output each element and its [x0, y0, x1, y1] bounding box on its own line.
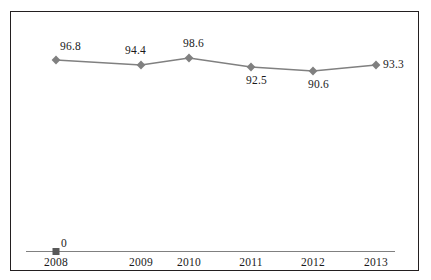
- series-1-line: [56, 58, 376, 71]
- x-tick-2012: 2012: [293, 257, 333, 269]
- x-tick-2008: 2008: [36, 257, 76, 269]
- x-tick-2013: 2013: [356, 257, 396, 269]
- value-label-zero: 0: [61, 238, 67, 250]
- x-tick-2010: 2010: [169, 257, 209, 269]
- x-tick-2011: 2011: [231, 257, 271, 269]
- value-label-2013: 93.3: [383, 59, 404, 71]
- series-1-marker-2011: [247, 63, 256, 72]
- series-2-marker-2008: [53, 248, 60, 255]
- value-label-2011: 92.5: [246, 75, 267, 87]
- x-tick-2009: 2009: [121, 257, 161, 269]
- value-label-2012: 90.6: [308, 79, 329, 91]
- value-label-2009: 94.4: [125, 45, 146, 57]
- series-1-marker-2008: [52, 56, 61, 65]
- series-1-marker-2013: [372, 61, 381, 70]
- chart-border-frame: 96.8 94.4 98.6 92.5 90.6 93.3 0 2008 200…: [10, 11, 419, 271]
- value-label-2010: 98.6: [183, 38, 204, 50]
- chart-figure: 96.8 94.4 98.6 92.5 90.6 93.3 0 2008 200…: [0, 0, 431, 280]
- plot-area: 96.8 94.4 98.6 92.5 90.6 93.3 0 2008 200…: [11, 12, 420, 272]
- series-1-marker-2012: [309, 67, 318, 76]
- value-label-2008: 96.8: [60, 41, 81, 53]
- series-1-marker-2009: [137, 61, 146, 70]
- series-1-marker-2010: [185, 54, 194, 63]
